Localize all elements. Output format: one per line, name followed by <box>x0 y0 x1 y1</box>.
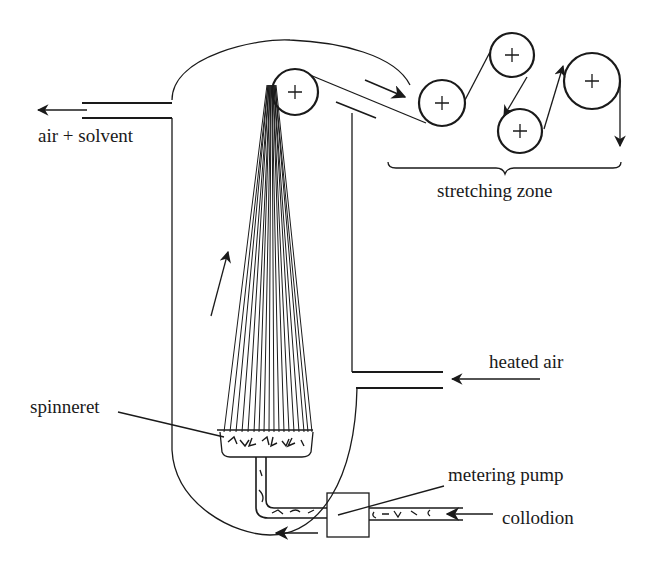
label-metering-pump: metering pump <box>448 465 564 484</box>
plus-icon <box>435 96 449 110</box>
metering-pump <box>327 493 369 537</box>
stretching-zone-brace <box>388 162 621 174</box>
plus-icon <box>505 48 519 62</box>
exit-slot-lip <box>336 102 376 118</box>
filament-bundle <box>224 85 312 432</box>
plus-icon <box>585 74 599 88</box>
pipe-texture <box>373 510 430 518</box>
label-spinneret: spinneret <box>30 397 100 416</box>
label-stretching-zone: stretching zone <box>437 181 553 200</box>
supply-pipe-inner <box>266 457 327 508</box>
collodion-texture <box>228 437 304 446</box>
upflow-arrow <box>211 252 228 316</box>
metering-pump-leader <box>338 486 444 515</box>
label-collodion: collodion <box>502 508 574 527</box>
plus-icon <box>288 85 302 99</box>
plus-icon <box>513 124 527 138</box>
label-heated-air: heated air <box>489 352 563 371</box>
spinneret-body <box>220 432 313 457</box>
label-air-solvent: air + solvent <box>38 126 133 145</box>
spinneret-leader <box>118 412 224 437</box>
direction-arrow <box>365 80 405 97</box>
